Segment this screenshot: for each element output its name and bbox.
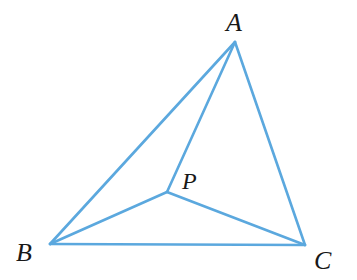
segment-AB (50, 42, 235, 244)
vertex-label-c: C (314, 248, 331, 274)
segment-CA (235, 42, 305, 245)
segment-PA (167, 42, 235, 192)
segment-PC (167, 192, 305, 245)
vertex-label-p: P (182, 169, 197, 193)
vertex-label-a: A (226, 10, 242, 36)
vertex-label-b: B (16, 240, 32, 266)
triangle-diagram-canvas (0, 0, 357, 280)
segment-BC (50, 244, 305, 245)
geometry-figure: A B C P (0, 0, 357, 280)
segment-PB (50, 192, 167, 244)
